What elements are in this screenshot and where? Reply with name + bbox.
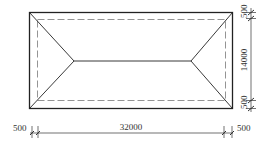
dim-bottom-overhang: 500 [239, 95, 249, 109]
outer-eave-outline [30, 13, 233, 109]
hip-lines [30, 13, 233, 109]
dim-length: 32000 [120, 122, 143, 132]
dim-left-overhang: 500 [13, 123, 27, 133]
dim-height: 14000 [239, 48, 249, 71]
dim-top-overhang: 500 [239, 4, 249, 18]
roof-plan-drawing: 500 14000 500 500 32000 500 [0, 0, 271, 150]
wall-outline-dashed [38, 20, 226, 101]
dim-right-overhang: 500 [237, 123, 251, 133]
